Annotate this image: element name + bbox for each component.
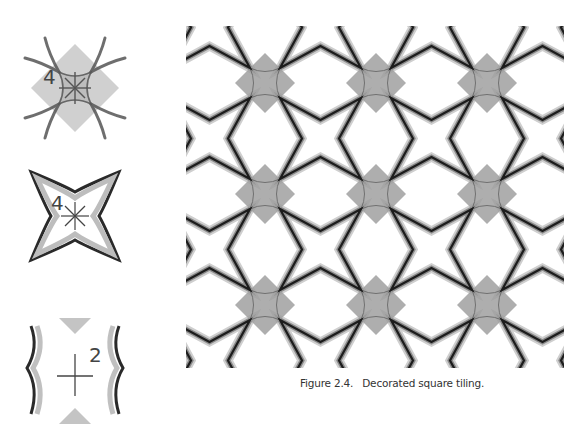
symmetry-order-label: 4 [51, 191, 64, 215]
figure-caption: Figure 2.4.Decorated square tiling. [300, 377, 484, 389]
tiling-pattern-icon [186, 26, 564, 368]
rotation-4-star-figure: 4 [25, 166, 125, 266]
decorated-square-tiling [186, 26, 564, 368]
figure-number: Figure 2.4. [300, 377, 353, 389]
cross-motif-icon: 2 [25, 318, 125, 424]
symmetry-order-label: 4 [43, 65, 56, 89]
rotation-4-diamond-figure: 4 [25, 38, 125, 138]
figure-caption-text: Decorated square tiling. [362, 377, 484, 389]
diamond-motif-icon: 4 [25, 38, 125, 138]
symmetry-order-label: 2 [89, 343, 102, 367]
rotation-2-cross-figure: 2 [25, 318, 125, 424]
star-motif-icon: 4 [25, 166, 125, 266]
